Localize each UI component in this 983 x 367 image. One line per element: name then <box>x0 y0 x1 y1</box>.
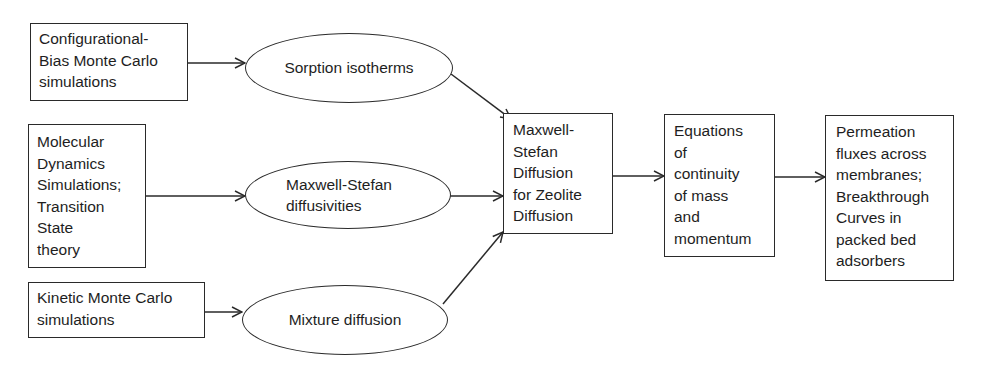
output-box-permeation: Permeation fluxes across membranes; Brea… <box>825 115 954 281</box>
arrow-mixture-to-core <box>443 232 503 304</box>
core-label: Maxwell- Stefan Diffusion for Zeolite Di… <box>513 119 603 227</box>
source-label-kmc: Kinetic Monte Carlo simulations <box>37 287 196 330</box>
core-box-ms-zeolite: Maxwell- Stefan Diffusion for Zeolite Di… <box>503 113 613 234</box>
source-box-cbmc: Configurational- Bias Monte Carlo simula… <box>30 23 188 101</box>
source-box-kmc: Kinetic Monte Carlo simulations <box>28 282 205 338</box>
source-label-md: Molecular Dynamics Simulations; Transiti… <box>37 131 137 260</box>
ellipse-label-mixture: Mixture diffusion <box>289 309 402 331</box>
ellipse-ms-diffusivities: Maxwell-Stefan diffusivities <box>245 161 451 229</box>
ellipse-label-sorption: Sorption isotherms <box>284 57 413 79</box>
output-label: Permeation fluxes across membranes; Brea… <box>836 121 943 272</box>
flow-diagram: Configurational- Bias Monte Carlo simula… <box>0 0 983 367</box>
ellipse-label-ms-diffusivities: Maxwell-Stefan diffusivities <box>286 174 392 217</box>
equations-label: Equations of continuity of mass and mome… <box>674 120 765 249</box>
source-label-cbmc: Configurational- Bias Monte Carlo simula… <box>39 28 179 93</box>
equations-box-continuity: Equations of continuity of mass and mome… <box>664 114 775 257</box>
arrow-sorption-to-core <box>451 74 511 119</box>
ellipse-mixture-diffusion: Mixture diffusion <box>242 285 448 355</box>
source-box-molecular-dynamics: Molecular Dynamics Simulations; Transiti… <box>28 124 146 268</box>
ellipse-sorption-isotherms: Sorption isotherms <box>245 33 453 103</box>
